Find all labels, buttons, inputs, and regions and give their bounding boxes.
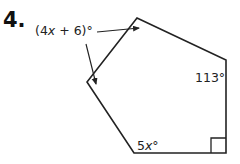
angle-label-4x-plus-6: (4x + 6)° <box>35 23 93 38</box>
right-angle-marker <box>211 138 226 153</box>
angle-label-113: 113° <box>195 70 225 85</box>
pentagon-figure: (4x + 6)° 113° 5x° <box>0 0 240 164</box>
pentagon-outline <box>87 18 226 153</box>
angle-label-5x: 5x° <box>137 138 159 153</box>
arrow-to-top-vertex <box>97 28 139 32</box>
